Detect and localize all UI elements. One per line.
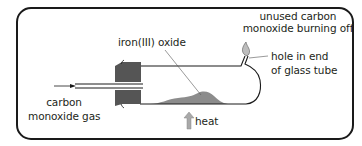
hole-leader	[249, 56, 268, 58]
iron-oxide-label: iron(III) oxide	[118, 36, 186, 48]
hole-label-line1: hole in end	[271, 50, 337, 62]
flame-icon	[242, 42, 249, 56]
gas-label-line1: carbon	[28, 96, 100, 108]
gas-label-line2: monoxide gas	[28, 110, 100, 122]
burning-label: unused carbon monoxide burning off	[240, 10, 356, 34]
gas-flow-arrow-icon	[54, 84, 76, 88]
gas-label: carbon monoxide gas	[28, 96, 100, 122]
burning-label-line1: unused carbon	[240, 10, 356, 22]
test-tube-wall	[140, 56, 245, 66]
heat-label: heat	[195, 115, 218, 127]
hole-label-line2: of glass tube	[271, 64, 337, 76]
hole-label: hole in end of glass tube	[271, 50, 337, 76]
iron-oxide-pile	[150, 92, 228, 104]
heat-arrow-icon	[184, 112, 194, 129]
burning-label-line2: monoxide burning off	[240, 22, 356, 34]
iron-oxide-leader	[165, 50, 201, 95]
